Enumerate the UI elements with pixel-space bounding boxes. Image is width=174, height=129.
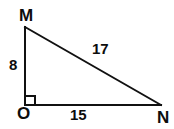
vertex-label-m: M [19,7,33,24]
vertex-label-o: O [17,105,30,122]
vertex-label-n: N [157,109,169,126]
side-length-label-mo: 8 [9,57,17,72]
side-length-label-on: 15 [70,107,87,122]
side-mn-line [25,27,161,105]
geometry-diagram: M O N 8 15 17 [0,0,174,129]
side-length-label-mn: 17 [92,41,109,56]
